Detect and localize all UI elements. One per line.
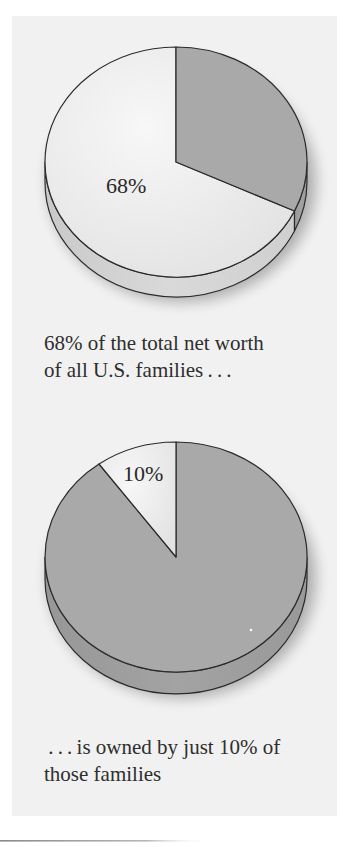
caption-1-line-1: 68% of the total net worth	[44, 330, 334, 357]
bottom-rule	[0, 840, 210, 842]
caption-families: . . . is owned by just 10% of those fami…	[44, 734, 334, 788]
caption-net-worth: 68% of the total net worth of all U.S. f…	[44, 330, 334, 384]
pie1-label: 68%	[106, 173, 146, 198]
caption-1-line-2: of all U.S. families . . .	[44, 357, 334, 384]
net-worth-pie-figure: 68% 10%	[0, 0, 350, 847]
pie2-label: 10%	[123, 461, 163, 486]
caption-2-line-1: . . . is owned by just 10% of	[44, 734, 334, 761]
caption-2-line-2: those families	[44, 761, 334, 788]
